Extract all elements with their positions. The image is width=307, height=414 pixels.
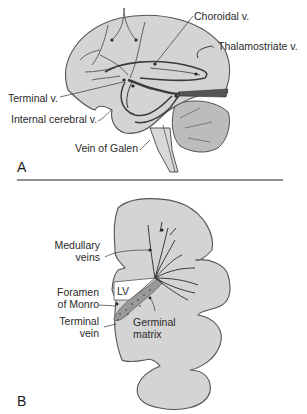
label-choroidal-v: Choroidal v. [194,10,249,22]
label-germinal-line2: matrix [133,328,176,340]
label-foramen-line1: Foramen [40,286,99,298]
label-germinal-line1: Germinal [133,316,176,328]
panel-b-letter: B [17,393,26,409]
cerebellum [172,101,229,152]
panel-b-drawing [99,199,230,410]
label-thalamostriate-v: Thalamostriate v. [218,40,298,52]
label-vein-of-galen: Vein of Galen [75,142,138,154]
label-medullary-line2: veins [50,251,100,263]
label-terminal-line2: vein [40,327,99,339]
label-foramen-of-monro: Foramen of Monro [40,286,99,310]
label-terminal-line1: Terminal [40,315,99,327]
label-lv: LV [117,285,129,297]
label-germinal-matrix: Germinal matrix [133,316,176,340]
label-terminal-v: Terminal v. [8,92,58,104]
diagram-canvas [0,0,307,414]
label-medullary-veins: Medullary veins [50,239,100,263]
label-internal-cerebral-v: Internal cerebral v. [11,113,97,125]
label-foramen-line2: of Monro [40,298,99,310]
label-terminal-vein: Terminal vein [40,315,99,339]
label-medullary-line1: Medullary [50,239,100,251]
panel-a-letter: A [17,159,26,175]
